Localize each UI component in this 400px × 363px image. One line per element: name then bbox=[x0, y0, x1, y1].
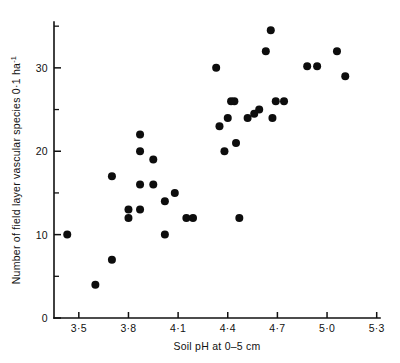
data-point bbox=[262, 47, 270, 55]
scatter-plot-figure: 3·53·84·14·44·75·05·3 0102030 Soil pH at… bbox=[0, 0, 400, 363]
x-tick-label-3: 4·4 bbox=[220, 322, 236, 334]
data-point bbox=[244, 114, 252, 122]
x-tick-label-4: 4·7 bbox=[269, 322, 285, 334]
x-tick-label-2: 4·1 bbox=[170, 322, 186, 334]
chart-canvas: 3·53·84·14·44·75·05·3 0102030 Soil pH at… bbox=[0, 0, 400, 363]
data-point bbox=[91, 281, 99, 289]
data-point bbox=[108, 256, 116, 264]
y-tick-label-3: 30 bbox=[36, 62, 48, 74]
data-point bbox=[303, 62, 311, 70]
y-tick-label-2: 20 bbox=[36, 145, 48, 157]
data-point bbox=[341, 72, 349, 80]
data-point bbox=[136, 147, 144, 155]
data-point bbox=[136, 181, 144, 189]
data-point bbox=[268, 114, 276, 122]
y-axis-title: Number of field layer vascular species 0… bbox=[9, 56, 22, 284]
data-point bbox=[235, 214, 243, 222]
y-tick-label-0: 0 bbox=[42, 312, 48, 324]
data-point bbox=[161, 197, 169, 205]
data-point bbox=[333, 47, 341, 55]
data-point bbox=[171, 189, 179, 197]
data-point bbox=[250, 110, 258, 118]
data-point bbox=[272, 97, 280, 105]
data-point bbox=[149, 181, 157, 189]
data-point bbox=[63, 231, 71, 239]
data-point bbox=[215, 122, 223, 130]
data-point bbox=[220, 147, 228, 155]
x-axis-title: Soil pH at 0–5 cm bbox=[173, 340, 260, 352]
x-tick-label-5: 5·0 bbox=[319, 322, 335, 334]
x-tick-label-0: 3·5 bbox=[71, 322, 87, 334]
x-tick-label-1: 3·8 bbox=[120, 322, 136, 334]
data-point bbox=[149, 156, 157, 164]
data-point bbox=[124, 206, 132, 214]
x-axis-ticks bbox=[79, 312, 377, 318]
data-point bbox=[224, 114, 232, 122]
data-point bbox=[227, 97, 235, 105]
data-point bbox=[232, 139, 240, 147]
data-point bbox=[161, 231, 169, 239]
data-point bbox=[267, 26, 275, 34]
x-axis-tick-labels: 3·53·84·14·44·75·05·3 bbox=[71, 322, 385, 334]
svg-text:Number of field layer vascular: Number of field layer vascular species 0… bbox=[9, 56, 22, 284]
data-point bbox=[108, 172, 116, 180]
data-point bbox=[136, 131, 144, 139]
data-point-series bbox=[63, 26, 349, 288]
data-point bbox=[136, 206, 144, 214]
data-point bbox=[189, 214, 197, 222]
data-point bbox=[313, 62, 321, 70]
data-point bbox=[124, 214, 132, 222]
x-tick-label-6: 5·3 bbox=[369, 322, 385, 334]
y-axis-tick-labels: 0102030 bbox=[36, 62, 48, 324]
data-point bbox=[212, 64, 220, 72]
y-axis-ticks bbox=[54, 26, 61, 318]
data-point bbox=[280, 97, 288, 105]
y-tick-label-1: 10 bbox=[36, 229, 48, 241]
